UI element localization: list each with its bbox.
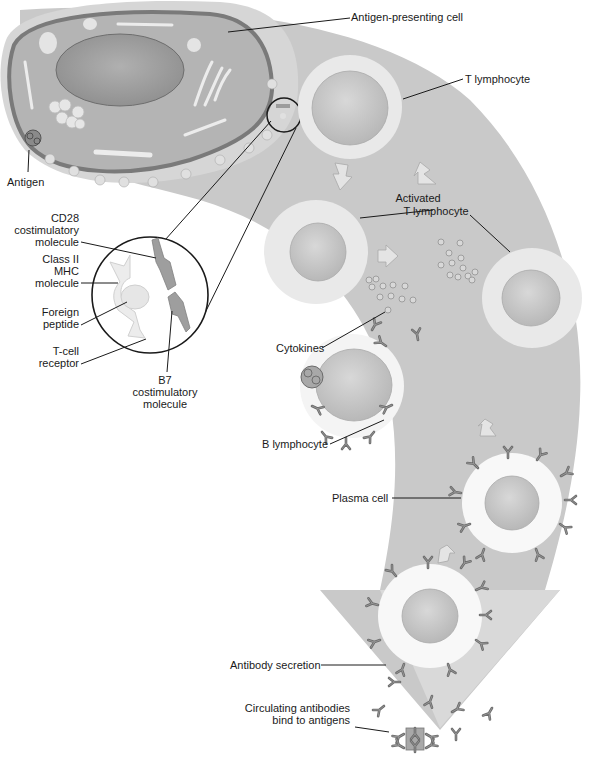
label-mhc-3: molecule <box>35 277 79 289</box>
label-mhc-1: Class II <box>42 253 79 265</box>
label-mhc-2: MHC <box>54 265 79 277</box>
synapse-inset <box>92 237 208 353</box>
activated-t-lymphocyte-2 <box>482 248 582 348</box>
label-circulating-1: Circulating antibodies <box>245 702 351 714</box>
label-b-lymphocyte: B lymphocyte <box>262 438 328 450</box>
label-activated-t-1: Activated <box>395 192 440 204</box>
label-b7-3: molecule <box>143 398 187 410</box>
activated-t-lymphocyte-1 <box>264 200 368 304</box>
antibody-antigen-complex <box>392 728 437 752</box>
label-plasma-cell: Plasma cell <box>332 492 388 504</box>
label-cd28-1: CD28 <box>51 212 79 224</box>
label-circulating-2: bind to antigens <box>272 714 350 726</box>
label-tcr-2: receptor <box>39 357 80 369</box>
label-antigen: Antigen <box>7 176 44 188</box>
bound-antigen <box>301 366 323 388</box>
apc-nucleus <box>56 34 184 106</box>
antigen-particle <box>25 130 41 146</box>
label-cd28-2: costimulatory <box>14 224 79 236</box>
label-tcr-1: T-cell <box>53 345 79 357</box>
label-cd28-3: molecule <box>35 236 79 248</box>
label-b7-2: costimulatory <box>133 386 198 398</box>
label-antibody-secretion: Antibody secretion <box>230 659 321 671</box>
label-peptide-2: peptide <box>43 318 79 330</box>
t-lymphocyte <box>298 55 402 159</box>
immune-response-diagram: Antigen-presenting cell T lymphocyte Ant… <box>0 0 594 780</box>
label-t-lymphocyte: T lymphocyte <box>465 73 530 85</box>
label-antigen-presenting-cell: Antigen-presenting cell <box>351 11 463 23</box>
label-activated-t-2: T lymphocyte <box>403 205 468 217</box>
label-cytokines: Cytokines <box>276 342 325 354</box>
label-b7-1: B7 <box>158 374 171 386</box>
label-peptide-1: Foreign <box>42 306 79 318</box>
